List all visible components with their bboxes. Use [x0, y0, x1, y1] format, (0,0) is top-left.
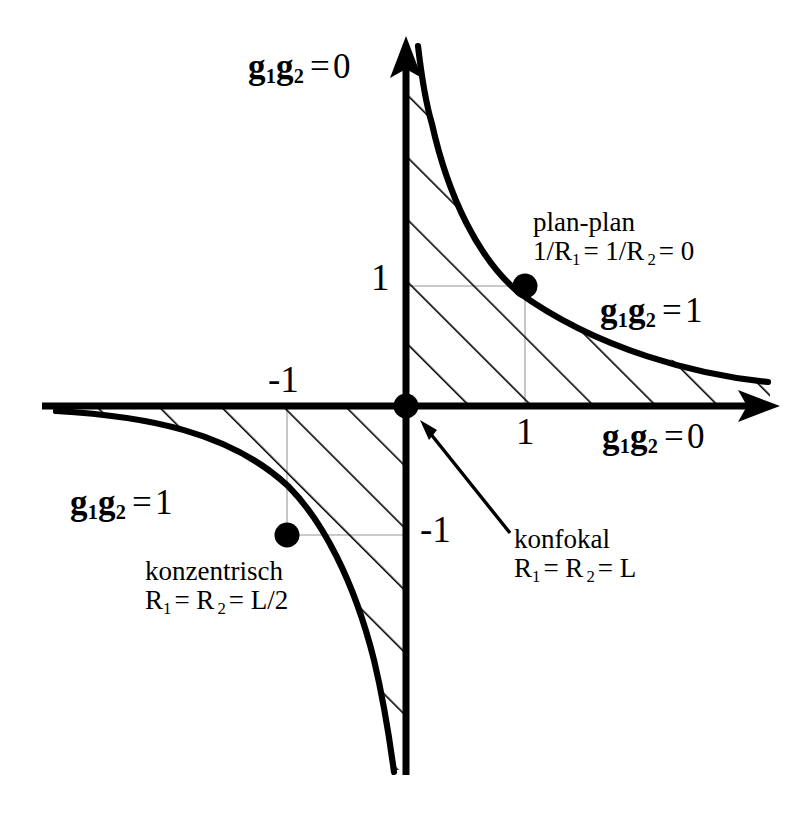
label-top-value: 0 — [333, 47, 351, 86]
tick-label-y-negative-one: -1 — [420, 510, 451, 550]
label-top-sub-1: 1 — [266, 65, 276, 87]
label-right0-sub-2: 2 — [648, 435, 658, 457]
point-konzentrisch — [275, 523, 300, 548]
annotation-konfokal-formula: R1= R2= L — [514, 554, 639, 583]
label-right1-g-second: g — [628, 291, 646, 330]
konzentrisch-formula-sub-1: 1 — [163, 599, 171, 618]
label-left1-sub-2: 2 — [116, 501, 126, 523]
annotation-plan-plan: plan-plan 1/R1= 1/R2= 0 — [533, 208, 697, 266]
label-right-g1g2-equals-0: g1g2=0 — [602, 418, 705, 456]
label-left1-sub-1: 1 — [88, 501, 98, 523]
label-right0-g: g — [602, 417, 620, 456]
tick-label-x-positive-one: 1 — [516, 412, 535, 452]
label-top-g1g2-equals-0: g1g2=0 — [248, 48, 351, 86]
konfokal-formula-sub-2: 2 — [586, 567, 594, 586]
annotation-plan-plan-formula: 1/R1= 1/R2= 0 — [533, 237, 697, 266]
tick-label-x-negative-one: -1 — [268, 360, 299, 400]
plan-plan-formula-suffix: = 0 — [656, 236, 697, 266]
label-top-sub-2: 2 — [294, 65, 304, 87]
label-top-g: g — [248, 47, 266, 86]
plan-plan-formula-sub-2: 2 — [647, 250, 655, 269]
annotation-konzentrisch: konzentrisch R1= R2= L/2 — [145, 557, 291, 615]
annotation-konzentrisch-formula: R1= R2= L/2 — [145, 586, 291, 615]
konzentrisch-formula-sub-2: 2 — [217, 599, 225, 618]
label-right0-sub-1: 1 — [620, 435, 630, 457]
label-right0-g-second: g — [630, 417, 648, 456]
label-top-equals: = — [304, 47, 333, 86]
konfokal-formula-mid: = R — [540, 553, 586, 583]
label-left1-g-second: g — [98, 483, 116, 522]
annotation-konzentrisch-name: konzentrisch — [145, 557, 291, 586]
annotation-plan-plan-name: plan-plan — [533, 208, 697, 237]
point-plan-plan — [513, 274, 538, 299]
annotation-konfokal: konfokal R1= R2= L — [514, 525, 639, 583]
konfokal-formula-prefix: R — [514, 553, 532, 583]
konfokal-formula-suffix: = L — [595, 553, 639, 583]
diagram-canvas — [0, 0, 808, 821]
label-left1-g: g — [70, 483, 88, 522]
label-right1-value: 1 — [685, 291, 703, 330]
label-right1-sub-2: 2 — [646, 309, 656, 331]
label-right0-value: 0 — [687, 417, 705, 456]
label-right0-equals: = — [658, 417, 687, 456]
label-left-g1g2-equals-1: g1g2=1 — [70, 484, 173, 522]
konzentrisch-formula-mid: = R — [171, 585, 217, 615]
point-konfokal — [394, 394, 419, 419]
label-left1-value: 1 — [155, 483, 173, 522]
label-right1-equals: = — [656, 291, 685, 330]
konzentrisch-formula-prefix: R — [145, 585, 163, 615]
plan-plan-formula-mid: = 1/R — [580, 236, 647, 266]
plan-plan-formula-prefix: 1/R — [533, 236, 572, 266]
label-right1-sub-1: 1 — [618, 309, 628, 331]
label-top-g-second: g — [276, 47, 294, 86]
stability-diagram-figure: g1g2=0 g1g2=1 g1g2=0 g1g2=1 1 -1 1 -1 pl… — [0, 0, 808, 821]
plan-plan-formula-sub-1: 1 — [572, 250, 580, 269]
konfokal-formula-sub-1: 1 — [532, 567, 540, 586]
label-right-g1g2-equals-1: g1g2=1 — [600, 292, 703, 330]
annotation-konfokal-name: konfokal — [514, 525, 639, 554]
label-left1-equals: = — [126, 483, 155, 522]
label-right1-g: g — [600, 291, 618, 330]
tick-label-y-positive-one: 1 — [371, 258, 390, 298]
konzentrisch-formula-suffix: = L/2 — [226, 585, 291, 615]
